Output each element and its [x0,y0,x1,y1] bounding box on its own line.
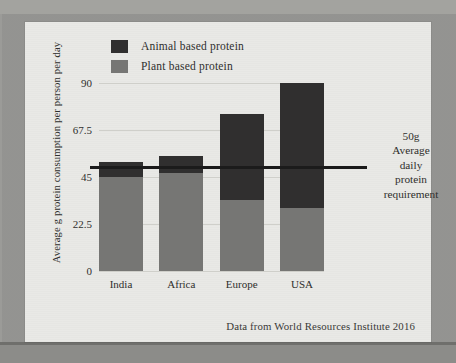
bar-column-europe[interactable]: Europe [220,83,264,271]
x-axis-label-india: India [110,278,133,290]
y-tick-label-90: 90 [81,77,92,89]
bar-stack-europe [220,114,264,271]
legend-label-plant: Plant based protein [141,60,233,72]
screenshot-root: Animal based protein Plant based protein… [0,0,456,363]
chart-legend: Animal based protein Plant based protein [111,38,244,78]
x-axis-label-africa: Africa [167,278,195,290]
plot-area: 022.54567.590 IndiaAfricaEuropeUSA [99,83,324,271]
source-caption: Data from World Resources Institute 2016 [226,320,415,332]
bar-segment-animal-africa[interactable] [159,156,203,173]
annotation-line: daily [372,158,450,173]
bar-group: IndiaAfricaEuropeUSA [99,83,324,271]
bar-column-africa[interactable]: Africa [159,83,203,271]
annotation-line: 50g [372,129,450,144]
bar-column-india[interactable]: India [99,83,143,271]
y-tick-label-67.5: 67.5 [73,124,92,136]
x-axis-label-usa: USA [291,278,313,290]
gridline-0 [99,271,324,272]
page-bottom-margin [0,345,456,363]
legend-item-animal: Animal based protein [111,38,244,54]
bar-stack-africa [159,156,203,271]
bar-segment-plant-europe[interactable] [220,200,264,271]
bar-segment-plant-usa[interactable] [280,208,324,271]
reference-line-annotation: 50gAveragedailyproteinrequirement [372,129,450,202]
bar-column-usa[interactable]: USA [280,83,324,271]
legend-item-plant: Plant based protein [111,58,244,74]
annotation-line: requirement [372,187,450,202]
x-axis-label-europe: Europe [226,278,258,290]
y-tick-label-45: 45 [81,171,92,183]
figure-card: Animal based protein Plant based protein… [25,22,431,342]
reference-line-50g [90,166,367,169]
legend-swatch-animal [111,40,128,53]
legend-swatch-plant [111,60,128,73]
y-tick-label-0: 0 [87,265,93,277]
annotation-line: protein [372,172,450,187]
bar-segment-animal-usa[interactable] [280,83,324,208]
bar-segment-plant-africa[interactable] [159,173,203,271]
bar-segment-plant-india[interactable] [99,177,143,271]
bar-stack-usa [280,83,324,271]
y-axis-title: Average g protein consumption per person… [51,28,62,278]
y-tick-label-22.5: 22.5 [73,218,92,230]
legend-label-animal: Animal based protein [141,40,244,52]
bar-stack-india [99,162,143,271]
bar-segment-animal-europe[interactable] [220,114,264,200]
annotation-line: Average [372,143,450,158]
page-top-margin [0,0,456,14]
